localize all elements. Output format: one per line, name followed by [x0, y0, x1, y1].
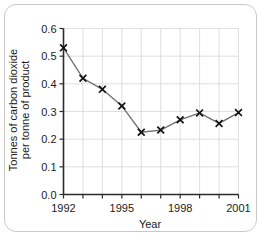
data-series-line — [64, 48, 239, 132]
y-tick-label: 0.5 — [41, 50, 56, 62]
chart-page: 0.00.10.20.30.40.50.6 1992199519982001 Y… — [0, 0, 263, 238]
y-axis-title-line1: Tonnes of carbon dioxide — [7, 49, 19, 171]
y-axis-title-line2: per tonne of product — [19, 61, 31, 159]
line-chart: 0.00.10.20.30.40.50.6 1992199519982001 Y… — [0, 0, 263, 238]
x-tick-label: 1995 — [110, 202, 134, 214]
y-tick-label: 0.4 — [41, 78, 56, 90]
y-tick-label: 0.1 — [41, 161, 56, 173]
y-tick-label: 0.6 — [41, 23, 56, 35]
x-tick-labels: 1992199519982001 — [51, 202, 250, 214]
tick-marks — [60, 29, 239, 199]
y-tick-label: 0.3 — [41, 106, 56, 118]
gridlines — [64, 29, 239, 195]
data-markers — [60, 44, 242, 135]
y-tick-labels: 0.00.10.20.30.40.50.6 — [41, 23, 56, 201]
x-tick-label: 2001 — [226, 202, 250, 214]
x-tick-label: 1992 — [51, 202, 75, 214]
y-tick-label: 0.0 — [41, 189, 56, 201]
x-tick-label: 1998 — [168, 202, 192, 214]
x-axis-title: Year — [139, 218, 162, 230]
y-tick-label: 0.2 — [41, 133, 56, 145]
